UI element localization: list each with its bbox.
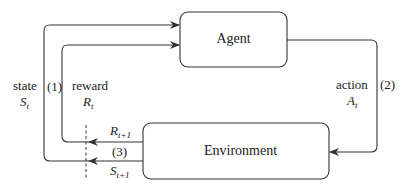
environment-label: Environment — [204, 143, 300, 159]
step-1-label: (1) — [47, 80, 62, 94]
action-symbol-sub: t — [355, 100, 358, 110]
reward-symbol-letter: R — [83, 94, 91, 109]
action-symbol-letter: A — [347, 93, 355, 108]
next-state-symbol: St+1 — [110, 164, 130, 182]
reward-symbol-sub: t — [91, 101, 94, 111]
reward-label: reward — [72, 79, 108, 93]
next-state-sub: t+1 — [117, 170, 130, 180]
action-symbol: At — [347, 94, 357, 112]
state-symbol: St — [20, 95, 29, 113]
agent-label: Agent — [180, 31, 287, 47]
next-reward-symbol: Rt+1 — [110, 124, 131, 142]
state-label: state — [13, 79, 37, 93]
action-arrow — [287, 40, 377, 152]
state-symbol-sub: t — [27, 101, 30, 111]
step-3-label: (3) — [112, 145, 127, 159]
action-label: action — [336, 78, 368, 92]
next-reward-letter: R — [110, 123, 118, 138]
next-reward-sub: t+1 — [118, 130, 131, 140]
reward-symbol: Rt — [83, 95, 93, 113]
step-2-label: (2) — [380, 78, 395, 92]
